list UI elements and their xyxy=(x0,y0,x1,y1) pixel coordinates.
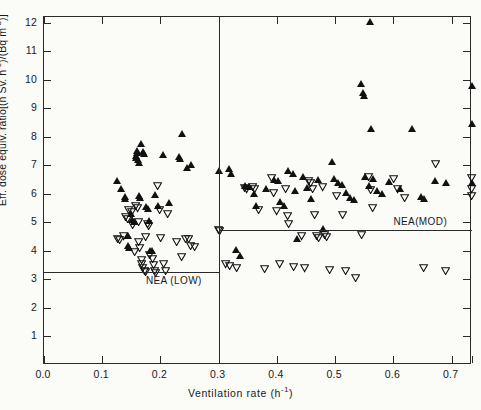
x-tick-top xyxy=(277,17,278,24)
y-tick-right xyxy=(463,51,470,52)
data-point-open xyxy=(467,192,476,200)
data-point-filled xyxy=(307,195,315,202)
y-tick-label: 9 xyxy=(11,101,37,113)
data-point-open xyxy=(215,227,224,235)
data-point-filled xyxy=(236,252,244,259)
data-point-open xyxy=(322,233,331,241)
x-tick xyxy=(452,356,453,363)
x-tick xyxy=(277,356,278,363)
data-point-filled xyxy=(121,195,129,202)
data-point-open xyxy=(297,232,306,240)
x-tick-label: 0.2 xyxy=(139,368,179,380)
data-point-open xyxy=(310,211,319,219)
data-point-filled xyxy=(227,170,235,177)
data-point-open xyxy=(281,185,290,193)
data-point-filled xyxy=(136,194,144,201)
nea-mod-label: NEA(MOD) xyxy=(393,216,447,227)
data-point-open xyxy=(289,263,298,271)
data-point-open xyxy=(250,185,259,193)
vertical-divider xyxy=(219,17,220,363)
data-point-open xyxy=(332,192,341,200)
figure-root: Eff. dose equiv. ratio[(n Sv. h-1)/(Bq m… xyxy=(0,0,481,410)
y-tick-label: 1 xyxy=(11,329,37,341)
data-point-filled xyxy=(431,177,439,184)
y-tick-right xyxy=(463,251,470,252)
x-tick-top xyxy=(335,17,336,24)
y-tick-right xyxy=(463,80,470,81)
data-point-filled xyxy=(338,181,346,188)
data-point-open xyxy=(144,222,153,230)
data-point-open xyxy=(431,160,440,168)
data-point-open xyxy=(190,243,199,251)
x-tick-label: 0.3 xyxy=(198,368,238,380)
data-point-filled xyxy=(151,191,159,198)
y-tick xyxy=(44,194,51,195)
y-tick xyxy=(44,23,51,24)
y-tick-label: 10 xyxy=(11,73,37,85)
data-point-filled xyxy=(350,196,358,203)
x-tick-top xyxy=(452,17,453,24)
data-point-open xyxy=(368,204,377,212)
data-point-open xyxy=(260,265,269,273)
data-point-open xyxy=(284,220,293,228)
x-tick xyxy=(335,356,336,363)
data-point-filled xyxy=(289,170,297,177)
data-point-open xyxy=(275,260,284,268)
data-point-open xyxy=(419,264,428,272)
data-point-open xyxy=(177,253,186,261)
plot-area: NEA (LOW)NEA(MOD) xyxy=(43,16,471,364)
x-tick-label: 0.6 xyxy=(372,368,412,380)
y-tick-label: 7 xyxy=(11,158,37,170)
data-point-open xyxy=(269,189,278,197)
data-point-open xyxy=(119,232,128,240)
data-point-open xyxy=(351,274,360,282)
x-tick-label: 0.0 xyxy=(23,368,63,380)
data-point-filled xyxy=(357,80,365,87)
data-point-filled xyxy=(291,187,299,194)
y-tick-label: 8 xyxy=(11,130,37,142)
y-tick-right xyxy=(463,137,470,138)
data-point-filled xyxy=(137,140,145,147)
nea-low-label: NEA (LOW) xyxy=(146,275,202,286)
y-tick-label: 2 xyxy=(11,301,37,313)
data-point-filled xyxy=(367,125,375,132)
data-point-filled xyxy=(378,190,386,197)
y-tick-label: 6 xyxy=(11,187,37,199)
y-axis-title: Eff. dose equiv. ratio[(n Sv. h-1)/(Bq m… xyxy=(0,14,8,206)
data-point-open xyxy=(133,204,142,212)
data-point-filled xyxy=(113,177,121,184)
data-point-open xyxy=(308,185,317,193)
reference-line xyxy=(219,230,472,231)
data-point-open xyxy=(325,266,334,274)
y-tick-label: 5 xyxy=(11,215,37,227)
y-tick xyxy=(44,308,51,309)
y-tick xyxy=(44,336,51,337)
data-point-open xyxy=(156,234,165,242)
data-point-open xyxy=(441,267,450,275)
y-tick-right xyxy=(463,279,470,280)
y-tick xyxy=(44,251,51,252)
data-point-filled xyxy=(328,158,336,165)
x-tick xyxy=(160,356,161,363)
x-axis-title: Ventilation rate (h-1) xyxy=(0,385,481,399)
data-point-open xyxy=(272,207,281,215)
y-tick-right xyxy=(463,165,470,166)
y-tick xyxy=(44,137,51,138)
reference-line xyxy=(44,272,219,273)
data-point-open xyxy=(338,211,347,219)
x-tick-top xyxy=(102,17,103,24)
data-point-filled xyxy=(442,179,450,186)
data-point-open xyxy=(141,233,150,241)
data-point-filled xyxy=(159,151,167,158)
y-tick-right xyxy=(463,108,470,109)
data-point-filled xyxy=(176,155,184,162)
data-point-open xyxy=(366,186,375,194)
data-point-open xyxy=(267,174,276,182)
x-tick-top xyxy=(160,17,161,24)
x-tick xyxy=(393,356,394,363)
data-point-filled xyxy=(165,199,173,206)
data-point-open xyxy=(318,183,327,191)
y-tick-label: 12 xyxy=(11,16,37,28)
data-point-open xyxy=(232,264,241,272)
y-tick-right xyxy=(463,308,470,309)
